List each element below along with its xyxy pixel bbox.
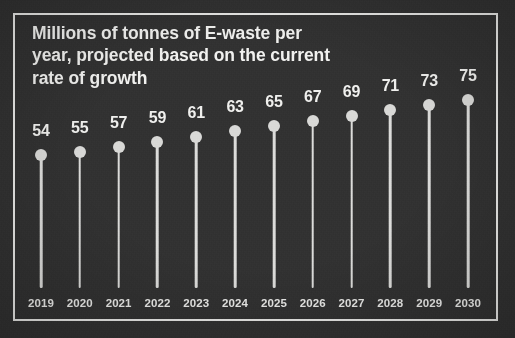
lollipop-stem [428, 105, 431, 288]
data-point-marker[interactable] [423, 99, 435, 111]
x-axis-tick-label: 2024 [222, 297, 248, 309]
data-value-label: 73 [420, 72, 437, 90]
x-axis-tick-label: 2028 [377, 297, 403, 309]
x-axis-tick-label: 2019 [28, 297, 54, 309]
x-axis-tick-label: 2022 [144, 297, 170, 309]
lollipop-stem [389, 110, 392, 288]
data-value-label: 71 [382, 77, 399, 95]
data-value-label: 75 [459, 67, 476, 85]
data-point-marker[interactable] [384, 104, 396, 116]
x-axis-tick-label: 2025 [261, 297, 287, 309]
x-axis-tick-label: 2023 [183, 297, 209, 309]
x-axis-tick-label: 2020 [67, 297, 93, 309]
x-axis-tick-label: 2030 [455, 297, 481, 309]
data-point-marker[interactable] [229, 125, 241, 137]
data-value-label: 55 [71, 119, 88, 137]
data-point-marker[interactable] [190, 131, 202, 143]
data-point-marker[interactable] [346, 110, 358, 122]
x-axis-tick-label: 2026 [300, 297, 326, 309]
data-value-label: 63 [226, 98, 243, 116]
data-value-label: 59 [149, 109, 166, 127]
data-value-label: 65 [265, 93, 282, 111]
lollipop-stem [79, 152, 82, 288]
x-axis-tick-label: 2021 [106, 297, 132, 309]
data-value-label: 67 [304, 88, 321, 106]
data-point-marker[interactable] [113, 141, 125, 153]
data-point-marker[interactable] [151, 136, 163, 148]
x-axis-tick-label: 2027 [339, 297, 365, 309]
lollipop-stem [467, 100, 470, 288]
lollipop-stem [311, 121, 314, 288]
data-point-marker[interactable] [462, 94, 474, 106]
lollipop-stem [117, 147, 120, 288]
lollipop-stem [40, 155, 43, 288]
lollipop-stem [234, 131, 237, 288]
data-point-marker[interactable] [35, 149, 47, 161]
lollipop-stem [350, 116, 353, 288]
chart-title: Millions of tonnes of E-waste per year, … [32, 22, 362, 89]
lollipop-stem [195, 137, 198, 288]
data-point-marker[interactable] [268, 120, 280, 132]
lollipop-stem [273, 126, 276, 288]
data-point-marker[interactable] [307, 115, 319, 127]
data-value-label: 57 [110, 114, 127, 132]
data-value-label: 61 [188, 104, 205, 122]
ewaste-projection-chart: 5420195520205720215920226120236320246520… [0, 0, 515, 338]
data-point-marker[interactable] [74, 146, 86, 158]
x-axis-tick-label: 2029 [416, 297, 442, 309]
data-value-label: 54 [32, 122, 49, 140]
lollipop-stem [156, 142, 159, 288]
